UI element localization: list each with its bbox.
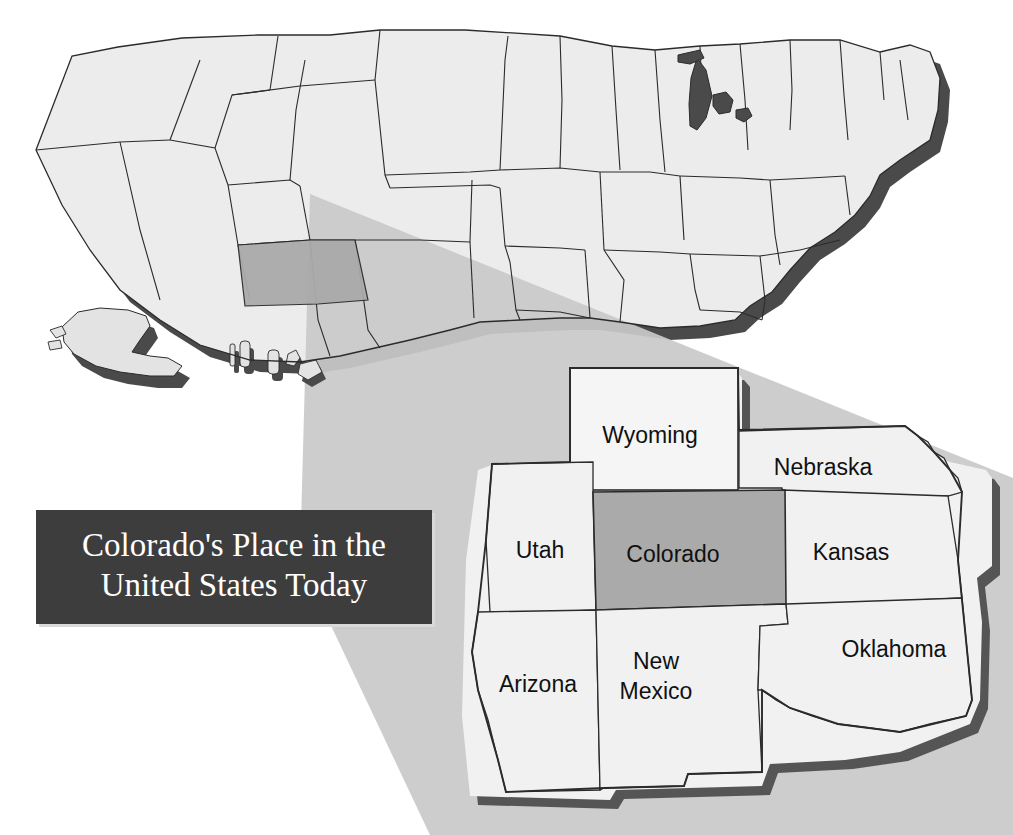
inset-label-kansas: Kansas	[813, 539, 890, 565]
figure-canvas: Wyoming Nebraska Utah Colorado Kansas Ar…	[0, 0, 1013, 835]
inset-label-wyoming: Wyoming	[602, 422, 698, 448]
inset-map: Wyoming Nebraska Utah Colorado Kansas Ar…	[0, 0, 1013, 835]
title-box: Colorado's Place in the United States To…	[36, 510, 432, 624]
inset-label-colorado: Colorado	[626, 541, 719, 567]
title-line-2: United States Today	[101, 565, 368, 605]
inset-label-oklahoma: Oklahoma	[842, 636, 947, 662]
title-line-1: Colorado's Place in the	[82, 525, 386, 565]
inset-label-new-mexico-line1: New	[633, 648, 679, 674]
inset-label-arizona: Arizona	[499, 671, 577, 697]
inset-label-utah: Utah	[516, 537, 565, 563]
inset-label-new-mexico-line2: Mexico	[620, 678, 693, 704]
inset-label-nebraska: Nebraska	[774, 454, 873, 480]
